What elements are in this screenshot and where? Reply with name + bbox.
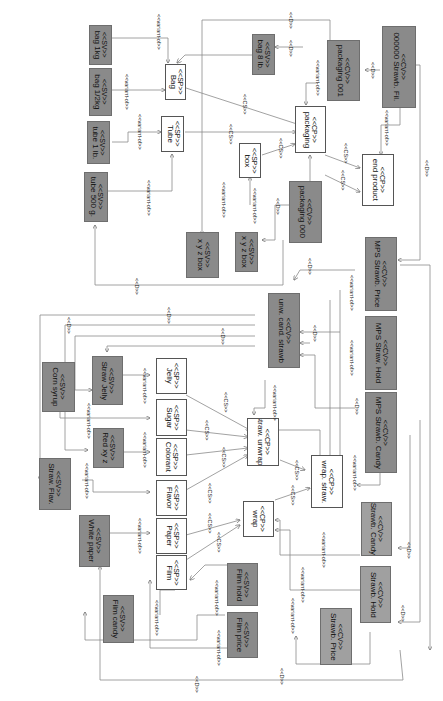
diagram-canvas: <<SV>>bag 1kg <<SV>>bag 1/2kg <<SV>>tube… (0, 0, 443, 701)
edge-label-variant-of: <<variant-of>> (86, 403, 92, 439)
edge-label-d: <<D>> (354, 398, 360, 415)
edge-label-variant-of: <<variant-of>> (146, 180, 152, 216)
edge-label-variant-of: <<variant-of>> (272, 385, 278, 421)
edge-label-d: <<D>> (134, 278, 140, 295)
node-straw-jelly[interactable]: <<SV>>Straw Jelly (92, 356, 123, 405)
node-strawb-price[interactable]: <<CV>>Strawb. Price (320, 608, 352, 665)
edge-label-cs: <<CS>> (228, 124, 234, 145)
edge-label-cs: <<CS>> (278, 138, 284, 159)
edge-label-variant-of: <<variant-of>> (137, 114, 143, 150)
node-bag[interactable]: <<SP>>Bag (165, 64, 186, 100)
node-packaging-001[interactable]: <<CV>>packaging 001 (327, 40, 360, 101)
node-film-price[interactable]: <<SV>>Film price (227, 612, 258, 658)
node-xyz-box[interactable]: <<SV>>x y z box (186, 232, 219, 278)
node-wrap[interactable]: <<CP>>wrap (243, 501, 274, 537)
node-packaging[interactable]: <<CP>>packaging (295, 106, 326, 153)
node-wrap-straw[interactable]: <<CP>>wrap. straw. (311, 455, 343, 508)
edge-label-cs: <<CS>> (343, 143, 349, 164)
edge-label-d: <<D>> (275, 198, 281, 215)
edge-label-d: <<D>> (194, 676, 200, 693)
node-jelly[interactable]: <<SP>>Jelly (156, 358, 187, 394)
edge-label-d: <<D>> (424, 160, 430, 177)
edge-label-variant-of: <<variant-of>> (214, 580, 220, 616)
edge-label-cs: <<CS>> (223, 392, 229, 413)
node-colorant[interactable]: <<SP>>Colorant (156, 438, 187, 476)
edge-label-variant-of: <<variant-of>> (384, 110, 390, 146)
edge-label-d: <<D>> (370, 62, 376, 79)
node-paper[interactable]: <<SP>>Paper (156, 518, 187, 554)
node-xyz-box-2[interactable]: <<SV>>x y z box (235, 232, 258, 272)
edge-label-variant-of: <<variant-of>> (352, 455, 358, 491)
node-box[interactable]: <<SP>>box (239, 143, 261, 178)
node-mps-strawb-price[interactable]: <<CV>>MPS Strawb. Price (365, 237, 397, 311)
edge-label-variant-of: <<variant-of>> (349, 275, 355, 311)
node-end-product[interactable]: <<CP>>end product (362, 154, 394, 206)
edge-label-variant-of: <<variant-of>> (84, 463, 90, 499)
node-mps-straw-hold[interactable]: <<CV>>MPS Straw. Hold (365, 316, 397, 390)
edge-label-d: <<D>> (288, 40, 294, 57)
node-film-hold[interactable]: <<SV>>Film hold (227, 563, 258, 606)
node-red-xyz[interactable]: <<SV>>Red xy z (93, 428, 124, 468)
edge-label-variant-of: <<variant-of>> (142, 432, 148, 468)
node-strawb-hold[interactable]: <<CV>>Strawb. Hold (360, 566, 391, 623)
node-film[interactable]: <<SP>>Film (156, 555, 187, 590)
edge-label-d: <<D>> (312, 325, 318, 342)
node-mps-strawb-candy[interactable]: <<CV>>MPS Strawb. Candy (365, 392, 397, 473)
node-packaging-000[interactable]: <<CV>>packaging 000 (289, 181, 322, 243)
node-straw-unwrap[interactable]: <<CP>>straw. unwrap. (247, 418, 279, 466)
edge-label-d: <<D>> (288, 12, 294, 29)
node-strawb-candy[interactable]: <<CV>>Strawb. Candy (361, 502, 392, 556)
edge-label-variant-of: <<variant-of>> (216, 630, 222, 666)
node-flavor[interactable]: <<SP>>Flavor (156, 480, 187, 516)
node-000000-strawb-fil[interactable]: <<CV>>000000 Strawb. Fil. (382, 26, 416, 108)
edge-label-cs: <<CS>> (207, 483, 213, 504)
node-straw-flav[interactable]: <<SV>>Straw. Flav. (39, 458, 71, 510)
edge-label-variant-of: <<variant-of>> (156, 14, 162, 50)
edge-label-variant-of: <<variant-of>> (300, 567, 306, 603)
node-corn-syrup[interactable]: <<SV>>Corn syrup (42, 362, 75, 412)
edge-label-variant-of: <<variant-of>> (290, 598, 296, 634)
edge-label-cs: <<CS>> (207, 513, 213, 534)
edge-label-cs: <<CS>> (290, 485, 296, 506)
edge-label-cs: <<CS>> (294, 460, 300, 481)
edge-label-cs: <<CS>> (242, 94, 248, 115)
edge-label-cs: <<CS>> (221, 447, 227, 468)
edge-label-variant-of: <<variant-of>> (349, 340, 355, 376)
node-white-paper[interactable]: <<SV>>White paper (79, 515, 110, 567)
edge-label-cs: <<CS>> (204, 420, 210, 441)
edge-label-variant-of: <<variant-of>> (252, 188, 258, 224)
edge-label-d: <<D>> (66, 317, 72, 334)
edge-label-variant-of: <<variant-of>> (315, 60, 321, 96)
edge-label-variant-of: <<variant-of>> (321, 532, 327, 568)
node-tube-1lb[interactable]: <<SV>>tube 1 lb. (87, 121, 110, 164)
edge-label-variant-of: <<variant-of>> (221, 182, 227, 218)
edge-label-d: <<D>> (406, 542, 412, 559)
node-tube-500g[interactable]: <<SV>>tube 500 g. (84, 172, 108, 222)
edge-label-variant-of: <<variant-of>> (154, 600, 160, 636)
node-bag-half-kg[interactable]: <<SV>>bag 1/2kg (89, 68, 112, 116)
edge-label-d: <<D>> (307, 258, 313, 275)
node-film-candy[interactable]: <<SV>>Film candy (103, 595, 134, 643)
edge-label-cs: <<CS>> (340, 170, 346, 191)
node-bag-1kg[interactable]: <<SV>>bag 1kg (89, 25, 112, 65)
edge-label-d: <<D>> (400, 605, 406, 622)
edge-label-d: <<D>> (166, 307, 172, 324)
node-unw-cand-strawb[interactable]: <<CV>>unw. cand. strawb (268, 293, 300, 368)
edge-label-cs: <<CS>> (216, 532, 222, 553)
node-tube[interactable]: <<SP>>Tube (161, 116, 184, 152)
edge-label-d: <<D>> (220, 328, 226, 345)
edge-label-variant-of: <<variant-of>> (137, 518, 143, 554)
node-sugar[interactable]: <<SP>>Sugar (156, 399, 187, 436)
edge-label-variant-of: <<variant-of>> (124, 74, 130, 110)
node-bag-8lb[interactable]: <<SV>>bag 8 lb. (252, 34, 275, 75)
edge-label-d: <<D>> (279, 668, 285, 685)
edge-label-variant-of: <<variant-of>> (142, 368, 148, 404)
